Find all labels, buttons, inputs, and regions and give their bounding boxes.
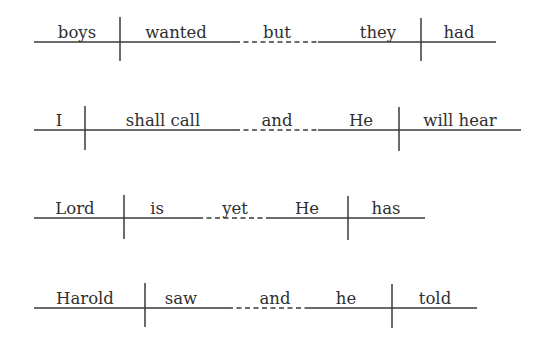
- word-conjunction: and: [261, 111, 292, 130]
- word-subject: they: [360, 23, 397, 42]
- diagram-lord-is-yet-he-has: Lord is yet He has: [34, 195, 425, 240]
- word-verb: shall call: [126, 111, 200, 130]
- word-subject: boys: [58, 23, 96, 42]
- word-verb: told: [419, 289, 452, 308]
- word-subject: He: [349, 111, 373, 130]
- diagram-i-shall-call-and-he-will-hear: I shall call and He will hear: [34, 106, 521, 151]
- word-verb: wanted: [145, 23, 207, 42]
- word-verb: will hear: [423, 111, 496, 130]
- word-subject: Lord: [55, 199, 95, 218]
- diagram-boys-wanted-but-they-had: boys wanted but they had: [34, 17, 496, 61]
- word-subject: he: [336, 289, 356, 308]
- word-subject: I: [56, 111, 63, 130]
- word-conjunction: yet: [221, 199, 248, 218]
- word-subject: Harold: [56, 289, 114, 308]
- word-verb: is: [150, 199, 164, 218]
- word-subject: He: [295, 199, 319, 218]
- word-verb: had: [443, 23, 474, 42]
- word-conjunction: and: [259, 289, 290, 308]
- sentence-diagrams: boys wanted but they had I shall call an…: [0, 0, 542, 342]
- word-verb: has: [372, 199, 401, 218]
- diagram-harold-saw-and-he-told: Harold saw and he told: [34, 283, 477, 328]
- word-verb: saw: [165, 289, 197, 308]
- word-conjunction: but: [263, 23, 291, 42]
